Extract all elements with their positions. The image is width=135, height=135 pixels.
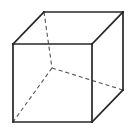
cube-figure — [0, 0, 135, 135]
cube-wireframe-svg — [0, 0, 135, 135]
